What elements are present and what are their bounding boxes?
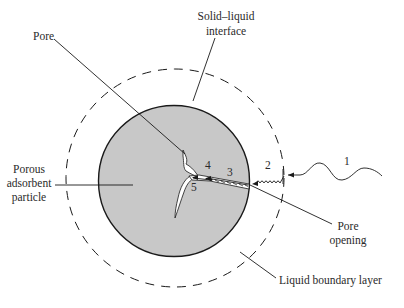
pore-label: Pore [33,30,54,42]
interface-label-line1: Solid–liquid [198,10,255,23]
interface-leader [193,38,215,101]
particle-label-line2: adsorbent [7,177,53,189]
pore-opening-label-line1: Pore [337,220,358,232]
step-4-label: 4 [205,159,211,171]
step-5-label: 5 [191,181,197,193]
pore-opening-label-line2: opening [329,234,366,247]
interface-label-line2: interface [206,25,246,37]
boundary-layer-label: Liquid boundary layer [279,274,382,287]
step-2-label: 2 [265,159,271,171]
particle-label-line3: particle [12,191,46,204]
step-1-label: 1 [344,155,350,167]
adsorption-diagram: 1 2 3 4 5 Solid–liquid interface Pore Po… [0,0,404,308]
pore-opening-leader [250,185,332,224]
boundary-layer-leader [240,252,276,278]
step-3-label: 3 [227,166,233,178]
particle-label-line1: Porous [13,163,45,175]
